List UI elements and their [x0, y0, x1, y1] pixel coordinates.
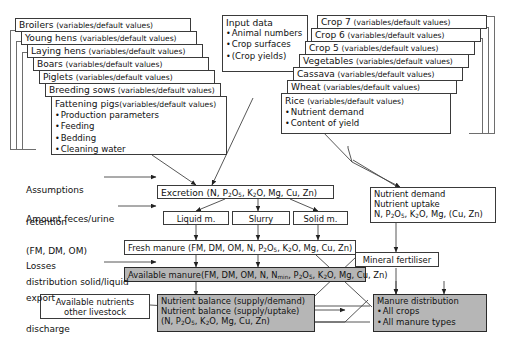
- card-name: Rice: [285, 96, 304, 106]
- bullet-item: Production parameters: [55, 110, 223, 121]
- bullet-item: Crop surfaces: [226, 39, 304, 50]
- livestock-card-piglets[interactable]: Piglets (variables/default values): [39, 70, 215, 84]
- tail: O, Mg, Cu, Zn): [256, 188, 317, 198]
- input-data-box[interactable]: Input data Animal numbers Crop surfaces …: [222, 15, 308, 72]
- mid: , K: [242, 188, 253, 198]
- card-qualifier: (variables/default values): [119, 100, 216, 109]
- nutrient-balance-box[interactable]: Nutrient balance (supply/demand) Nutrien…: [157, 294, 315, 332]
- crop-card-crop6[interactable]: Crop 6 (variables/default values): [311, 28, 481, 42]
- card-qualifier: (variables/default values): [348, 31, 445, 40]
- card-name: Cassava: [297, 69, 335, 79]
- mid: O: [302, 270, 309, 280]
- manure-distribution-box[interactable]: Manure distribution All crops All manure…: [373, 294, 487, 332]
- mid: , P: [288, 270, 298, 280]
- crop-card-cassava[interactable]: Cassava (variables/default values): [293, 67, 463, 81]
- liquid-manure-box[interactable]: Liquid m.: [163, 211, 229, 225]
- card-name: Crop 7: [321, 17, 351, 27]
- liquid-manure-label: Liquid m.: [177, 214, 216, 224]
- card-qualifier: (variables/default values): [66, 60, 163, 69]
- slurry-label: Slurry: [249, 214, 274, 224]
- balance-supply-uptake-line: Nutrient balance (supply/uptake): [161, 306, 311, 316]
- bullet-item: Animal numbers: [226, 28, 304, 39]
- tail: O, Mg, (Cu, Zn): [419, 209, 483, 219]
- mineral-fertiliser-label: Mineral fertiliser: [363, 255, 431, 265]
- card-qualifier: (variables/default values): [323, 83, 420, 92]
- bullet-item: All crops: [377, 306, 483, 317]
- card-name: Boars: [37, 59, 63, 69]
- card-name: Laying hens: [31, 46, 86, 56]
- bullet-item: All manure types: [377, 317, 483, 328]
- mid: , K: [405, 209, 416, 219]
- livestock-card-broilers[interactable]: Broilers (variables/default values): [15, 18, 191, 32]
- fresh-manure-box[interactable]: Fresh manure (FM, DM, OM, N, P2O5, K2O, …: [124, 240, 356, 255]
- crop-card-wheat[interactable]: Wheat (variables/default values): [287, 80, 457, 94]
- livestock-card-breeding-sows[interactable]: Breeding sows (variables/default values): [45, 83, 221, 97]
- fattening-pigs-bullets: Production parameters Feeding Bedding Cl…: [55, 110, 223, 155]
- card-qualifier: (variables/default values): [118, 86, 215, 95]
- card-qualifier: (variables/default values): [307, 97, 404, 106]
- mid: , K: [277, 243, 288, 253]
- bullet-item: Cleaning water: [55, 144, 223, 155]
- card-qualifier: (variables/default values): [89, 47, 186, 56]
- card-qualifier: (variables/default values): [56, 21, 153, 30]
- crop-card-vegetables[interactable]: Vegetables (variables/default values): [299, 54, 469, 68]
- solid-manure-box[interactable]: Solid m.: [293, 211, 348, 225]
- excretion-label: Excretion (N, P: [161, 188, 228, 198]
- pre: N, P: [374, 209, 391, 219]
- pre: (N, P: [161, 316, 181, 326]
- bullet-item: Nutrient demand: [285, 107, 447, 118]
- slurry-box[interactable]: Slurry: [232, 211, 290, 225]
- bullet-item: Bedding: [55, 133, 223, 144]
- manure-distribution-title: Manure distribution: [377, 296, 483, 306]
- nutrient-elements-line: N, P2O5, K2O, Mg, (Cu, Zn): [374, 209, 492, 221]
- manure-distribution-bullets: All crops All manure types: [377, 306, 483, 328]
- card-qualifier: (variables/default values): [80, 34, 177, 43]
- sub: min: [278, 274, 289, 280]
- nutrient-demand-uptake-box[interactable]: Nutrient demand Nutrient uptake N, P2O5,…: [370, 187, 496, 223]
- solid-manure-label: Solid m.: [304, 214, 338, 224]
- available-manure-label: Available manure(FM, DM, OM, N, N: [128, 270, 278, 280]
- crop-card-rice[interactable]: Rice (variables/default values) Nutrient…: [281, 93, 451, 134]
- card-name: Broilers: [19, 20, 53, 30]
- card-qualifier: (variables/default values): [354, 18, 451, 27]
- tail: O, Mg, Cu, Zn): [209, 316, 270, 326]
- label-line: discharge: [26, 324, 70, 335]
- card-qualifier: (variables/default values): [338, 70, 435, 79]
- card-name: Crop 6: [315, 30, 345, 40]
- nutrient-uptake-line: Nutrient uptake: [374, 199, 492, 209]
- card-name: Breeding sows: [49, 85, 115, 95]
- card-name: Wheat: [291, 82, 321, 92]
- tail: O, Mg, Cu, Zn): [327, 270, 388, 280]
- nutrient-demand-line: Nutrient demand: [374, 189, 492, 199]
- crop-card-crop5[interactable]: Crop 5 (variables/default values): [305, 41, 475, 55]
- fresh-manure-label: Fresh manure (FM, DM, OM, N, P: [128, 243, 263, 253]
- card-qualifier: (variables/default values): [342, 44, 439, 53]
- mid: , K: [195, 316, 206, 326]
- bullet-item: Feeding: [55, 121, 223, 132]
- excretion-box[interactable]: Excretion (N, P2O5, K2O, Mg, Cu, Zn): [157, 185, 334, 199]
- label-losses-export-discharge: Losses export discharge: [26, 240, 70, 352]
- balance-elements-line: (N, P2O5, K2O, Mg, Cu, Zn): [161, 316, 311, 328]
- label-line: Losses: [26, 261, 70, 272]
- available-manure-box[interactable]: Available manure(FM, DM, OM, N, Nmin, P2…: [124, 267, 366, 282]
- livestock-card-boars[interactable]: Boars (variables/default values): [33, 57, 209, 71]
- card-name: Vegetables: [303, 56, 353, 66]
- bullet-item: Content of yield: [285, 118, 447, 129]
- card-qualifier: (variables/default values): [76, 73, 173, 82]
- label-line: export: [26, 293, 70, 304]
- card-name: Crop 5: [309, 43, 339, 53]
- livestock-card-laying-hens[interactable]: Laying hens (variables/default values): [27, 44, 203, 58]
- input-data-bullets: Animal numbers Crop surfaces (Crop yield…: [226, 28, 304, 62]
- input-data-title: Input data: [226, 18, 304, 28]
- label-line: Amount feces/urine: [26, 214, 129, 225]
- card-name: Fattening pigs: [55, 99, 119, 109]
- card-name: Young hens: [25, 33, 77, 43]
- mineral-fertiliser-box[interactable]: Mineral fertiliser: [355, 252, 439, 267]
- mid: O: [267, 243, 274, 253]
- livestock-card-fattening-pigs[interactable]: Fattening pigs(variables/default values)…: [51, 96, 227, 155]
- livestock-card-young-hens[interactable]: Young hens (variables/default values): [21, 31, 197, 45]
- tail: O, Mg, Cu, Zn): [292, 243, 353, 253]
- balance-supply-demand-line: Nutrient balance (supply/demand): [161, 296, 311, 306]
- rice-bullets: Nutrient demand Content of yield: [285, 107, 447, 129]
- crop-card-crop7[interactable]: Crop 7 (variables/default values): [317, 15, 487, 29]
